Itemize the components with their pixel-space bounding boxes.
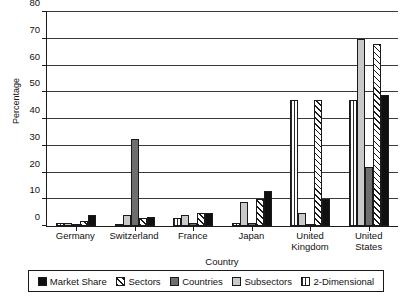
bar[interactable] xyxy=(205,213,213,226)
y-axis-tick-label: 60 xyxy=(29,52,40,61)
bar-group xyxy=(281,12,340,226)
bar[interactable] xyxy=(131,139,139,226)
bar[interactable] xyxy=(373,44,381,226)
y-axis-tick-label: 40 xyxy=(29,105,40,114)
y-axis-tick-label: 30 xyxy=(29,132,40,141)
bar-group xyxy=(340,12,399,226)
y-axis-tick-label: 10 xyxy=(29,185,40,194)
bar[interactable] xyxy=(173,218,181,226)
x-axis-tick-label: Germany xyxy=(46,230,105,252)
y-axis-tick-label: 80 xyxy=(29,0,40,7)
y-axis-tick-label: 20 xyxy=(29,159,40,168)
legend-item[interactable]: Subsectors xyxy=(232,276,292,287)
bar[interactable] xyxy=(298,213,306,226)
bar[interactable] xyxy=(123,215,131,226)
x-axis-tick-labels: GermanySwitzerlandFranceJapanUnitedKingd… xyxy=(46,230,398,252)
y-axis-tick-label: 0 xyxy=(35,212,40,221)
legend-label: Subsectors xyxy=(244,276,292,287)
chart-legend: Market ShareSectorsCountriesSubsectors2-… xyxy=(28,270,384,292)
bar[interactable] xyxy=(232,223,240,226)
bar-group-inner xyxy=(173,12,213,226)
bar[interactable] xyxy=(381,95,389,226)
legend-swatch xyxy=(170,277,179,286)
legend-swatch xyxy=(232,277,241,286)
bar[interactable] xyxy=(147,217,155,226)
bar-group-inner xyxy=(115,12,155,226)
bar[interactable] xyxy=(240,202,248,226)
bar-groups xyxy=(47,12,398,226)
bar[interactable] xyxy=(64,223,72,226)
legend-swatch xyxy=(116,277,125,286)
bar[interactable] xyxy=(115,224,123,226)
bar-group-inner xyxy=(232,12,272,226)
bar-group-inner xyxy=(56,12,96,226)
legend-label: Market Share xyxy=(50,276,107,287)
legend-item[interactable]: 2-Dimensional xyxy=(301,276,374,287)
bar-group xyxy=(47,12,106,226)
bar[interactable] xyxy=(264,191,272,226)
x-axis-tick-label: UnitedStates xyxy=(339,230,398,252)
bar[interactable] xyxy=(349,100,357,226)
legend-item[interactable]: Countries xyxy=(170,276,223,287)
x-axis-tick-label: France xyxy=(163,230,222,252)
legend-label: Countries xyxy=(182,276,223,287)
y-axis-tick-label: 50 xyxy=(29,78,40,87)
bar[interactable] xyxy=(197,213,205,226)
bar[interactable] xyxy=(248,223,256,226)
bar[interactable] xyxy=(56,223,64,226)
bar[interactable] xyxy=(80,221,88,226)
bar[interactable] xyxy=(322,199,330,226)
bar[interactable] xyxy=(290,100,298,226)
bar[interactable] xyxy=(357,39,365,226)
plot-area: 01020304050607080 xyxy=(46,12,398,227)
legend-item[interactable]: Sectors xyxy=(116,276,160,287)
bar-group xyxy=(223,12,282,226)
bar-group-inner xyxy=(349,12,389,226)
y-axis-title: Percentage xyxy=(11,61,21,141)
bar[interactable] xyxy=(88,215,96,226)
legend-label: Sectors xyxy=(128,276,160,287)
bar-chart: Percentage 01020304050607080 GermanySwit… xyxy=(0,0,410,299)
bar-group xyxy=(164,12,223,226)
x-axis-tick-label: Japan xyxy=(222,230,281,252)
bar[interactable] xyxy=(181,215,189,226)
x-axis-title: Country xyxy=(46,256,398,267)
bar[interactable] xyxy=(139,218,147,226)
bar[interactable] xyxy=(189,223,197,226)
legend-swatch xyxy=(301,277,310,286)
bar-group xyxy=(106,12,165,226)
legend-label: 2-Dimensional xyxy=(313,276,374,287)
x-axis-tick-label: Switzerland xyxy=(105,230,164,252)
bar[interactable] xyxy=(306,224,314,226)
legend-swatch xyxy=(38,277,47,286)
bar[interactable] xyxy=(314,100,322,226)
bar[interactable] xyxy=(365,167,373,226)
bar[interactable] xyxy=(256,199,264,226)
bar[interactable] xyxy=(72,224,80,226)
x-axis-tick-label: UnitedKingdom xyxy=(281,230,340,252)
legend-item[interactable]: Market Share xyxy=(38,276,107,287)
bar-group-inner xyxy=(290,12,330,226)
y-axis-tick-label: 70 xyxy=(29,25,40,34)
